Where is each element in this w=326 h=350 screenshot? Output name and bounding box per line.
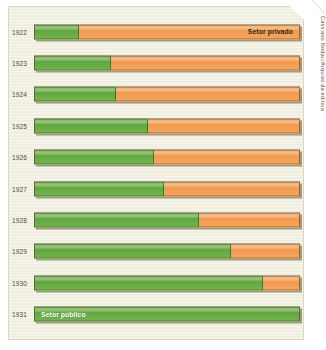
- bar-row: 1922Setor privado: [8, 16, 304, 47]
- private-sector-label: Setor privado: [248, 28, 293, 35]
- bar-row: 1931Setor público: [8, 299, 304, 330]
- bar-segment-private: Setor privado: [79, 24, 300, 39]
- bar-segment-private: [154, 150, 300, 165]
- year-axis-label: 1922: [12, 28, 27, 35]
- panel-corner-fold-icon: [311, 0, 326, 15]
- image-credit: Cassiano Nodari/Arquivo da editora: [320, 16, 326, 111]
- bar-row: 1926: [8, 142, 304, 173]
- bar-track: Setor público: [34, 307, 300, 322]
- year-axis-label: 1930: [12, 279, 27, 286]
- bar-track: Setor privado: [34, 24, 300, 39]
- bar-segment-public: Setor público: [34, 307, 300, 322]
- bar-row: 1927: [8, 173, 304, 204]
- bar-segment-public: [34, 56, 111, 71]
- bar-segment-public: [34, 118, 148, 133]
- bar-track: [34, 181, 300, 196]
- bar-segment-public: [34, 150, 154, 165]
- bar-segment-public: [34, 275, 263, 290]
- bar-segment-public: [34, 244, 231, 259]
- year-axis-label: 1927: [12, 185, 27, 192]
- chart-figure: 1922Setor privado19231924192519261927192…: [0, 0, 326, 350]
- bar-row: 1930: [8, 267, 304, 298]
- bar-segment-private: [148, 118, 300, 133]
- bar-segment-private: [164, 181, 300, 196]
- bar-track: [34, 213, 300, 228]
- bar-segment-private: [116, 87, 300, 102]
- year-axis-label: 1924: [12, 91, 27, 98]
- bar-segment-public: [34, 87, 116, 102]
- bar-track: [34, 244, 300, 259]
- public-sector-label: Setor público: [41, 311, 86, 318]
- year-axis-label: 1931: [12, 311, 27, 318]
- bar-track: [34, 275, 300, 290]
- bar-segment-private: [199, 213, 300, 228]
- year-axis-label: 1925: [12, 122, 27, 129]
- year-axis-label: 1928: [12, 217, 27, 224]
- bar-row: 1923: [8, 47, 304, 78]
- year-axis-label: 1926: [12, 154, 27, 161]
- bar-segment-private: [111, 56, 300, 71]
- bar-segment-public: [34, 24, 79, 39]
- bar-segment-public: [34, 181, 164, 196]
- bar-row: 1925: [8, 110, 304, 141]
- bar-track: [34, 150, 300, 165]
- bar-row: 1924: [8, 79, 304, 110]
- bar-segment-private: [263, 275, 300, 290]
- year-axis-label: 1929: [12, 248, 27, 255]
- bar-track: [34, 118, 300, 133]
- year-axis-label: 1923: [12, 60, 27, 67]
- bar-track: [34, 56, 300, 71]
- bar-row: 1929: [8, 236, 304, 267]
- bar-segment-public: [34, 213, 199, 228]
- stacked-bar-plot: 1922Setor privado19231924192519261927192…: [8, 6, 304, 340]
- bar-track: [34, 87, 300, 102]
- bar-row: 1928: [8, 204, 304, 235]
- bar-segment-private: [231, 244, 300, 259]
